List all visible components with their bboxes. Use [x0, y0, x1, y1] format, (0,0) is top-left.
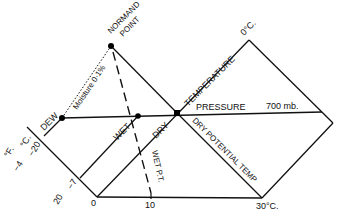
dry-point-dot — [174, 110, 180, 116]
dry-potential-temp-label: DRY POTENTIAL TEMP — [191, 116, 259, 184]
thirty-label: 30°C. — [256, 201, 279, 211]
pressure-value-label: 700 mb. — [266, 101, 299, 111]
wet-pt-line — [113, 52, 151, 193]
f-minus4-label: −4 — [11, 159, 25, 173]
unit-f-label: °F. — [2, 145, 16, 159]
temperature-axis-bottom — [97, 197, 262, 198]
ten-label: 10 — [145, 200, 155, 210]
zero-label: 0 — [91, 198, 96, 208]
normand-point-dot — [108, 43, 114, 49]
pressure-line — [62, 112, 322, 118]
wet-pt-label: WET P.T. — [150, 150, 166, 184]
wet-point-dot — [135, 113, 141, 119]
moisture-label: Moisture 0·1% — [71, 63, 107, 111]
temperature-label: TEMPERATURE — [182, 54, 237, 109]
c-minus7-label: −7 — [65, 177, 79, 191]
dew-label: DEW — [38, 110, 60, 132]
left-isotherm-line — [27, 127, 97, 197]
dew-point-dot — [59, 115, 65, 121]
adiabat-lower-right — [262, 123, 333, 198]
dry-potential-temp-line — [177, 113, 262, 198]
normand-point-diagram: NORMAND POINT Moisture 0·1% DEW WET DRY … — [0, 0, 337, 213]
top-temp-label: 0°C. — [238, 18, 258, 38]
f-20-label: 20 — [51, 192, 65, 206]
pressure-label: PRESSURE — [196, 102, 246, 112]
